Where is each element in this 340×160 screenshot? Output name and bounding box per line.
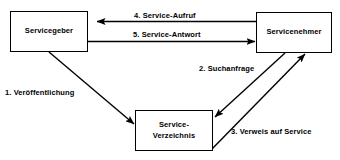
edge-label-service-antwort: 5. Service-Antwort [133,31,201,39]
soa-diagram: Servicegeber Servicenehmer Service- Verz… [0,0,340,160]
node-servicegeber-label: Servicegeber [25,26,73,36]
edge-label-suchanfrage: 2. Suchanfrage [199,65,254,73]
node-servicenehmer[interactable]: Servicenehmer [256,12,332,53]
node-servicegeber[interactable]: Servicegeber [10,11,88,52]
node-service-verzeichnis-label: Service- Verzeichnis [153,120,195,140]
edge-label-verweis-auf-service: 3. Verweis auf Service [231,128,312,136]
node-servicenehmer-label: Servicenehmer [266,27,321,37]
edge-label-service-aufruf: 4. Service-Aufruf [134,12,196,20]
edge-label-veroeffentlichung: 1. Veröffentlichung [5,89,74,97]
node-service-verzeichnis[interactable]: Service- Verzeichnis [135,110,213,151]
